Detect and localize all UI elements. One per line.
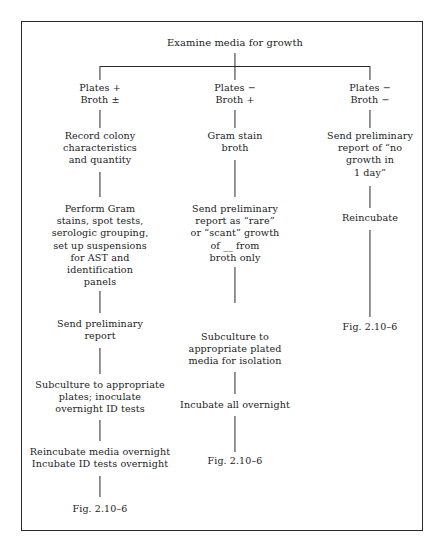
- connector-right-step2-to-figure-ref: [369, 230, 370, 317]
- connector-right-step1-to-step2: [369, 186, 370, 208]
- connector-left-step5-to-figure-ref: [99, 476, 100, 497]
- branch-label-middle: Plates − Broth +: [170, 82, 300, 107]
- left-figure-ref: Fig. 2.10–6: [40, 503, 160, 515]
- connector-left-step2-to-step3: [99, 291, 100, 313]
- left-step-3: Send preliminary report: [30, 318, 170, 342]
- connector-splitter-to-left-branch: [99, 66, 100, 80]
- left-step-2: Perform Gram stains, spot tests, serolog…: [25, 203, 175, 288]
- connector-middle-step2-to-step3: [234, 267, 235, 303]
- middle-step-3: Subculture to appropriate plated media f…: [160, 331, 310, 368]
- middle-step-4: Incubate all overnight: [155, 399, 315, 411]
- root-node-label: Examine media for growth: [120, 37, 350, 49]
- middle-step-1: Gram stain broth: [165, 130, 305, 154]
- connector-middle-step1-to-step2: [234, 160, 235, 197]
- connector-left-step3-to-step4: [99, 348, 100, 374]
- connector-splitter-to-middle-branch: [234, 66, 235, 80]
- connector-left-label-to-step1: [99, 110, 100, 128]
- connector-right-label-to-step1: [369, 110, 370, 128]
- right-figure-ref: Fig. 2.10–6: [310, 321, 430, 333]
- connector-root-stem: [234, 53, 235, 67]
- right-step-2: Reincubate: [305, 212, 435, 224]
- flowchart-figure: Examine media for growth Plates + Broth …: [0, 0, 443, 547]
- left-step-5: Reincubate media overnight Incubate ID t…: [15, 446, 185, 470]
- connector-middle-step3-to-step4: [234, 372, 235, 394]
- connector-left-step4-to-step5: [99, 420, 100, 441]
- branch-label-left: Plates + Broth ±: [35, 82, 165, 107]
- right-step-1: Send preliminary report of “no growth in…: [305, 130, 435, 179]
- branch-label-right: Plates − Broth −: [310, 82, 430, 107]
- connector-middle-label-to-step1: [234, 110, 235, 128]
- left-step-1: Record colony characteristics and quanti…: [30, 130, 170, 167]
- connector-left-step1-to-step2: [99, 172, 100, 197]
- connector-middle-step4-to-figure-ref: [234, 416, 235, 452]
- middle-step-2: Send preliminary report as “rare” or “sc…: [160, 203, 310, 264]
- middle-figure-ref: Fig. 2.10–6: [175, 455, 295, 467]
- connector-splitter-to-right-branch: [369, 66, 370, 80]
